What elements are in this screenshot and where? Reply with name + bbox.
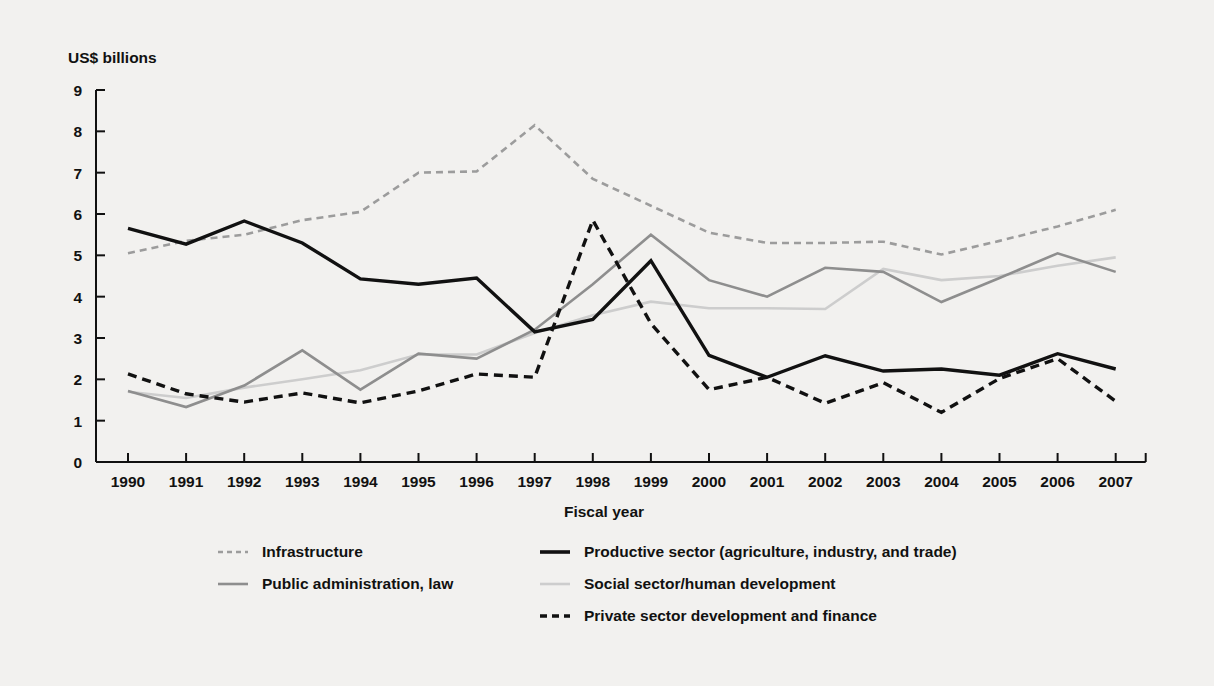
x-tick-label: 2006: [1040, 473, 1075, 490]
y-tick-label: 7: [73, 165, 82, 182]
x-tick-label: 1992: [227, 473, 261, 490]
x-tick-label: 1999: [634, 473, 669, 490]
x-tick-label: 1994: [343, 473, 378, 490]
legend-label: Private sector development and finance: [584, 607, 877, 624]
y-tick-label: 0: [73, 454, 82, 471]
legend-label: Social sector/human development: [584, 575, 836, 592]
x-tick-label: 2000: [692, 473, 726, 490]
y-tick-label: 1: [73, 413, 82, 430]
line-chart: US$ billions 0123456789 1990199119921993…: [0, 0, 1214, 686]
legend-label: Public administration, law: [262, 575, 454, 592]
x-tick-label: 1990: [111, 473, 145, 490]
y-tick-label: 6: [73, 206, 82, 223]
y-tick-label: 2: [73, 371, 82, 388]
x-tick-label: 1995: [401, 473, 436, 490]
y-tick-label: 9: [73, 82, 82, 99]
y-axis-title: US$ billions: [68, 49, 157, 66]
y-tick-label: 8: [73, 123, 82, 140]
y-tick-label: 3: [73, 330, 82, 347]
x-tick-label: 1993: [285, 473, 320, 490]
x-tick-label: 2001: [750, 473, 785, 490]
x-axis-title: Fiscal year: [564, 503, 644, 520]
y-tick-label: 4: [73, 289, 82, 306]
x-tick-label: 2002: [808, 473, 842, 490]
x-tick-label: 2003: [866, 473, 901, 490]
x-tick-label: 1998: [576, 473, 611, 490]
x-tick-label: 1991: [169, 473, 204, 490]
x-tick-label: 1996: [459, 473, 494, 490]
legend-label: Productive sector (agriculture, industry…: [584, 543, 957, 560]
x-tick-label: 1997: [517, 473, 551, 490]
x-tick-label: 2007: [1098, 473, 1132, 490]
y-tick-label: 5: [73, 247, 82, 264]
legend-label: Infrastructure: [262, 543, 363, 560]
x-tick-label: 2005: [982, 473, 1017, 490]
x-tick-label: 2004: [924, 473, 959, 490]
chart-figure: US$ billions 0123456789 1990199119921993…: [0, 0, 1214, 686]
